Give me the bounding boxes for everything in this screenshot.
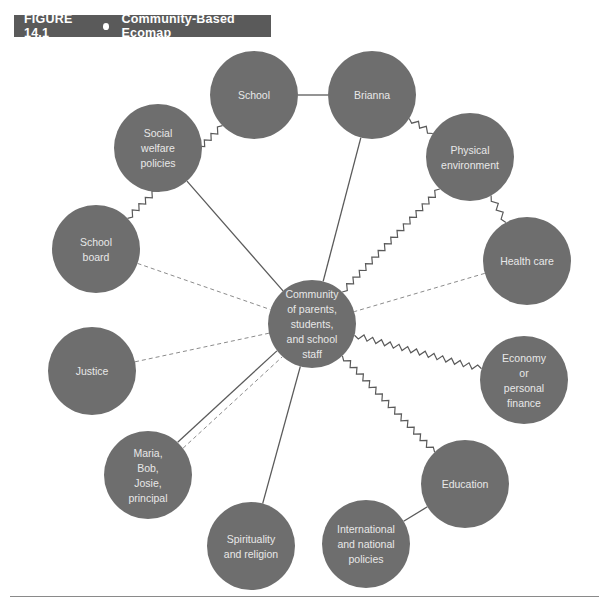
- edge-health_care-community-dashed: [354, 273, 485, 311]
- edge-school_board-community-dashed: [138, 263, 271, 309]
- node-label: policies: [140, 157, 175, 169]
- node-label: and school: [287, 333, 338, 345]
- edge-education-community-zigzag: [342, 356, 434, 452]
- node-label: Josie,: [134, 477, 161, 489]
- node-label: Education: [442, 478, 489, 490]
- node-label: students,: [291, 318, 334, 330]
- node-circle: [480, 336, 568, 424]
- node-label: Social: [144, 127, 173, 139]
- node-health_care: Health care: [483, 217, 571, 305]
- node-social_welfare: Socialwelfarepolicies: [114, 104, 202, 192]
- node-label: of parents,: [287, 303, 337, 315]
- node-label: School: [80, 236, 112, 248]
- node-label: welfare: [140, 142, 175, 154]
- node-brianna: Brianna: [328, 51, 416, 139]
- node-maria: Maria,Bob,Josie,principal: [104, 431, 192, 519]
- node-label: and national: [337, 538, 394, 550]
- node-label: Health care: [500, 255, 554, 267]
- node-circle: [52, 205, 140, 293]
- edge-justice-community-dashed: [135, 333, 269, 362]
- node-label: School: [238, 89, 270, 101]
- node-spirituality: Spiritualityand religion: [207, 502, 295, 590]
- node-label: policies: [348, 553, 383, 565]
- node-label: board: [83, 251, 110, 263]
- node-label: Bob,: [137, 462, 159, 474]
- node-circle: [426, 113, 514, 201]
- node-label: Spirituality: [227, 533, 276, 545]
- node-label: staff: [302, 348, 322, 360]
- node-label: and religion: [224, 548, 278, 560]
- node-physical_env: Physicalenvironment: [426, 113, 514, 201]
- edge-physical_env-health_care-zigzag: [491, 196, 506, 223]
- node-circle: [104, 431, 192, 519]
- node-label: Maria,: [133, 447, 162, 459]
- edge-physical_env-community-zigzag: [342, 189, 440, 292]
- node-label: finance: [507, 397, 541, 409]
- edge-economy-community-zigzag: [355, 335, 482, 369]
- node-label: Economy: [502, 352, 547, 364]
- node-school_board: Schoolboard: [52, 205, 140, 293]
- node-label: principal: [128, 492, 167, 504]
- node-circle: [207, 502, 295, 590]
- edge-spirituality-community-solid: [263, 366, 301, 503]
- node-label: Brianna: [354, 89, 390, 101]
- bottom-divider: [10, 596, 599, 597]
- node-economy: Economyorpersonalfinance: [480, 336, 568, 424]
- node-label: Community: [285, 288, 339, 300]
- edge-social_welfare-community-solid: [187, 181, 283, 291]
- edge-maria-community-dashed: [183, 357, 282, 448]
- edge-brianna-community-solid: [323, 138, 361, 282]
- ecomap-diagram: Communityof parents,students,and schools…: [0, 0, 599, 606]
- edge-brianna-physical_env-zigzag: [409, 119, 433, 134]
- node-label: Justice: [76, 365, 109, 377]
- node-label: or: [519, 367, 529, 379]
- node-label: personal: [504, 382, 544, 394]
- node-label: Physical: [450, 144, 489, 156]
- edge-education-international-solid: [404, 507, 428, 521]
- node-school: School: [210, 51, 298, 139]
- node-community: Communityof parents,students,and schools…: [268, 280, 356, 368]
- node-label: environment: [441, 159, 499, 171]
- edge-maria-community-solid: [178, 351, 277, 442]
- node-international: Internationaland nationalpolicies: [322, 500, 410, 588]
- node-layer: Communityof parents,students,and schools…: [48, 51, 571, 590]
- node-label: International: [337, 523, 395, 535]
- node-justice: Justice: [48, 327, 136, 415]
- node-education: Education: [421, 440, 509, 528]
